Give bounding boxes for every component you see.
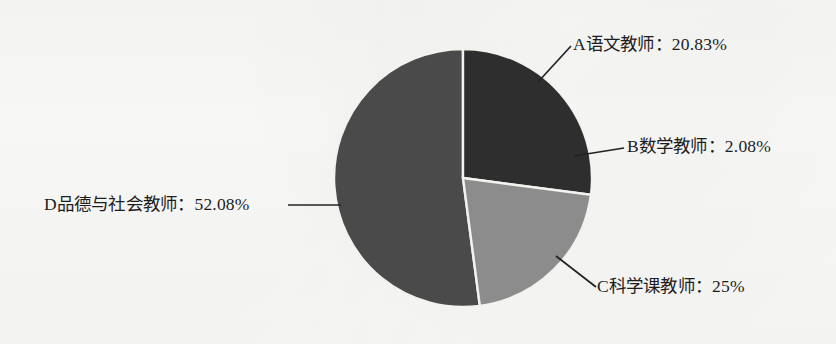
pie-label-d: D品德与社会教师：52.08% — [44, 196, 250, 214]
pie-label-b: B数学教师：2.08% — [627, 138, 771, 156]
pie-label-c: C科学课教师：25% — [597, 278, 745, 296]
pie-slice-c[interactable] — [463, 178, 591, 306]
pie-chart-figure: A语文教师：20.83% B数学教师：2.08% C科学课教师：25% D品德与… — [0, 0, 836, 344]
pie-slice-d[interactable] — [334, 49, 480, 307]
leader-line-a — [538, 46, 571, 82]
pie-label-a: A语文教师：20.83% — [573, 36, 727, 54]
leader-line-c — [556, 256, 596, 287]
